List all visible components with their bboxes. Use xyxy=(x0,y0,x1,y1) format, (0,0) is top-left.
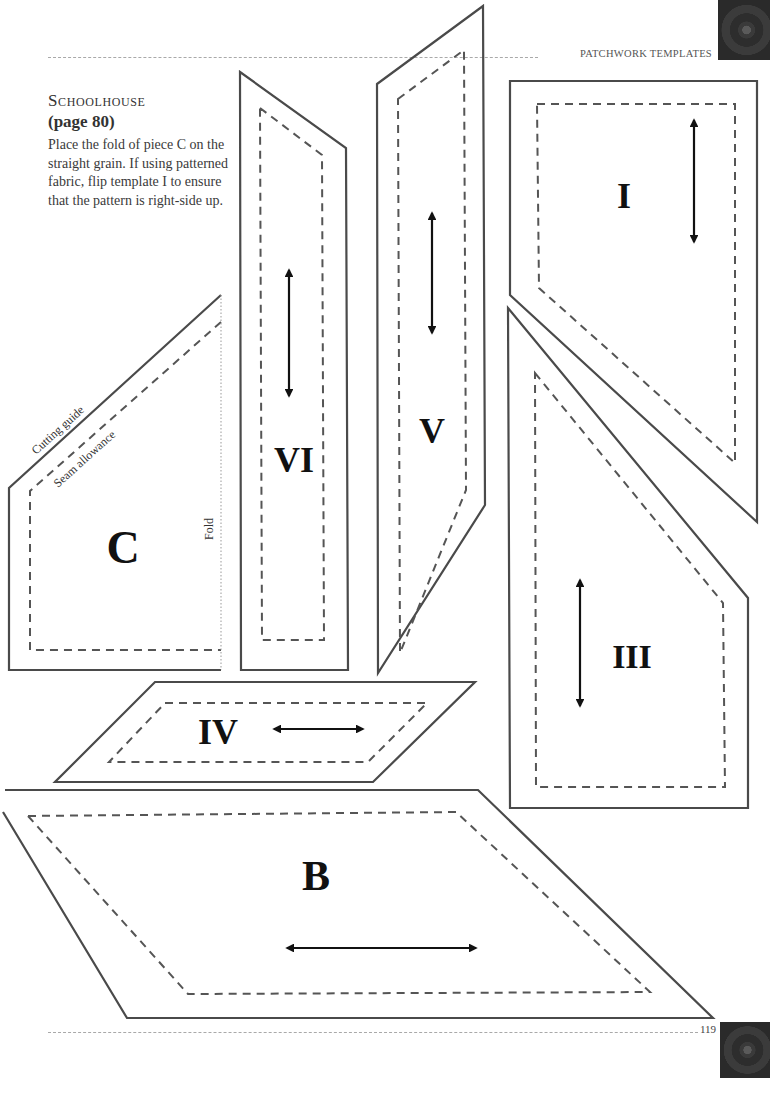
template-i: I xyxy=(510,81,757,522)
template-iii: III xyxy=(508,308,748,808)
template-b-outline xyxy=(3,790,713,1018)
fold-label: Fold xyxy=(202,518,216,540)
template-iii-label: III xyxy=(612,638,652,675)
template-v: V xyxy=(377,6,485,673)
template-i-seam xyxy=(537,104,735,463)
template-iii-outline xyxy=(508,308,748,808)
template-iv: IV xyxy=(55,682,475,782)
template-i-label: I xyxy=(617,176,631,216)
template-vi-outline xyxy=(240,72,348,670)
template-b-seam xyxy=(28,812,650,994)
cutting-guide-label: Cutting guide xyxy=(29,403,87,457)
template-vi: VI xyxy=(240,72,348,670)
template-c: Cutting guide Seam allowance Fold C xyxy=(9,295,221,670)
template-b-label: B xyxy=(302,853,330,899)
template-i-outline xyxy=(510,81,757,522)
template-vi-seam xyxy=(260,108,324,640)
footer-rule xyxy=(48,1032,698,1033)
seam-allowance-label: Seam allowance xyxy=(51,427,119,490)
template-iv-seam xyxy=(109,703,427,762)
template-v-outline xyxy=(377,6,485,673)
quilt-thumbnail-bottom xyxy=(720,1022,770,1078)
template-b: B xyxy=(3,790,713,1018)
template-vi-label: VI xyxy=(274,440,314,480)
template-iv-label: IV xyxy=(198,712,238,752)
template-v-seam xyxy=(398,50,466,653)
template-iii-seam xyxy=(535,373,725,787)
page-number: 119 xyxy=(700,1023,716,1035)
template-v-label: V xyxy=(419,411,445,451)
templates-canvas: Cutting guide Seam allowance Fold C VI V… xyxy=(0,0,770,1094)
template-c-label: C xyxy=(106,522,139,573)
template-iv-outline xyxy=(55,682,475,782)
